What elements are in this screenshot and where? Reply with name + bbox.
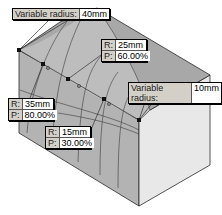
- variable-radius-value-input[interactable]: 10mm: [191, 83, 221, 103]
- callout-point-30[interactable]: R: 15mm P: 30.00%: [45, 126, 91, 149]
- callout-variable-radius-end[interactable]: Variable radius: 10mm: [128, 82, 222, 104]
- position-label: P:: [9, 110, 22, 120]
- radius-label: R:: [9, 99, 22, 109]
- midpoint-marker[interactable]: [107, 102, 110, 105]
- midpoint-marker[interactable]: [77, 84, 80, 87]
- radius-label: R:: [46, 127, 59, 137]
- variable-radius-label: Variable radius:: [13, 9, 79, 19]
- variable-radius-label: Variable radius:: [129, 83, 191, 103]
- position-label: P:: [102, 51, 115, 61]
- radius-label: R:: [102, 40, 115, 50]
- control-point-60[interactable]: [66, 77, 70, 81]
- position-value-input[interactable]: 80.00%: [22, 110, 58, 120]
- midpoint-marker[interactable]: [46, 66, 49, 69]
- position-value-input[interactable]: 30.00%: [59, 138, 95, 148]
- radius-value-input[interactable]: 15mm: [59, 127, 90, 137]
- vertex-point-end[interactable]: [137, 118, 141, 122]
- control-point-30[interactable]: [102, 97, 106, 101]
- vertex-point-start[interactable]: [17, 48, 21, 52]
- radius-value-input[interactable]: 35mm: [22, 99, 53, 109]
- control-point-80[interactable]: [41, 62, 45, 66]
- variable-radius-value-input[interactable]: 40mm: [79, 9, 109, 19]
- callout-variable-radius-start[interactable]: Variable radius: 40mm: [12, 8, 110, 20]
- callout-point-80[interactable]: R: 35mm P: 80.00%: [8, 98, 54, 121]
- position-value-input[interactable]: 60.00%: [115, 51, 151, 61]
- radius-value-input[interactable]: 25mm: [115, 40, 146, 50]
- position-label: P:: [46, 138, 59, 148]
- callout-point-60[interactable]: R: 25mm P: 60.00%: [101, 39, 147, 62]
